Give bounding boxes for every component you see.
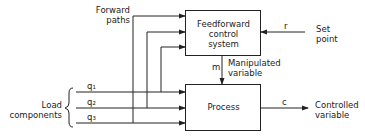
set-point-label: Set point: [316, 24, 338, 44]
r-signal-label: r: [284, 21, 288, 31]
controlled-line1: Controlled: [315, 100, 359, 110]
feedforward-label-line2: control: [186, 29, 261, 39]
feedforward-label-line3: system: [186, 39, 261, 49]
manipulated-variable-label: Manipulated variable: [228, 58, 281, 78]
forward-paths-line1: Forward: [88, 5, 130, 15]
feedforward-label-line1: Feedforward: [186, 19, 261, 29]
set-point-line1: Set: [316, 24, 338, 34]
controlled-line2: variable: [315, 110, 359, 120]
load-components-label: Load components: [6, 100, 62, 120]
controlled-variable-label: Controlled variable: [315, 100, 359, 120]
c-signal-label: c: [282, 97, 287, 107]
load-line2: components: [6, 110, 62, 120]
q1-label: q₁: [87, 81, 96, 91]
load-line1: Load: [6, 100, 62, 110]
set-point-line2: point: [316, 34, 338, 44]
manipulated-line2: variable: [228, 68, 281, 78]
manipulated-line1: Manipulated: [228, 58, 281, 68]
m-signal-label: m: [212, 62, 220, 72]
load-brace: [65, 88, 73, 127]
forward-paths-label: Forward paths: [88, 5, 130, 25]
forward-paths-line2: paths: [88, 15, 130, 25]
process-block-label: Process: [186, 102, 261, 112]
q2-label: q₂: [87, 97, 96, 107]
q3-label: q₃: [87, 112, 96, 122]
feedforward-block-label: Feedforward control system: [186, 19, 261, 49]
